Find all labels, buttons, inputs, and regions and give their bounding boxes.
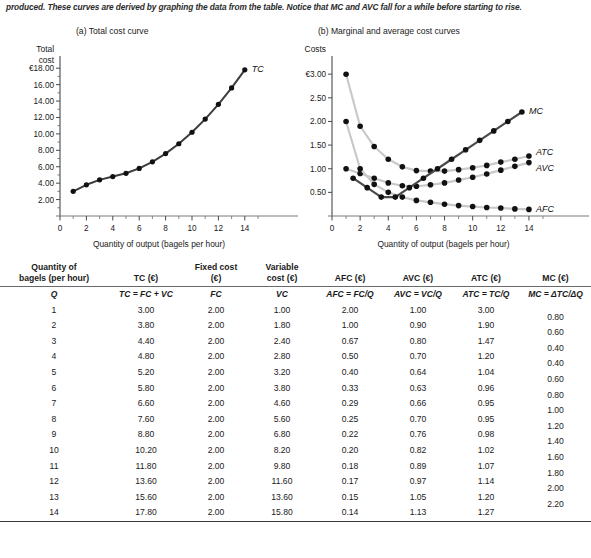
cell-mc: 0.60 [520, 372, 591, 388]
header-line: AVC (€) [384, 273, 452, 284]
cell-vc: 5.60 [248, 412, 316, 428]
cell-avc: 0.66 [384, 396, 452, 412]
data-point-atc [456, 167, 462, 173]
y-tick-label: €3.00 [306, 70, 327, 79]
x-tick-label: 12 [496, 224, 506, 233]
cell-tc: 4.40 [108, 334, 184, 350]
cell-avc: 0.70 [384, 412, 452, 428]
cell-tc: 3.00 [108, 303, 184, 319]
y-tick-label: 4.00 [38, 179, 54, 188]
data-point-afc [343, 119, 349, 125]
y-tick-label: 2.00 [38, 196, 54, 205]
cell-tc: 5.20 [108, 365, 184, 381]
y-tick-label: 1.50 [310, 141, 326, 150]
cell-q: 13 [0, 490, 108, 506]
cell-atc: 1.04 [452, 365, 520, 381]
data-point-atc [484, 163, 490, 169]
y-tick-label: 8.00 [38, 146, 54, 155]
cell-fc: 2.00 [184, 443, 248, 459]
figure-caption: produced. These curves are derived by gr… [6, 2, 586, 13]
cell-afc: 0.18 [316, 459, 384, 475]
data-point-afc [400, 194, 406, 200]
data-point-atc [470, 165, 476, 171]
y-tick-label: 12.00 [34, 113, 55, 122]
data-point-mc [519, 109, 525, 115]
cell-q: 11 [0, 459, 108, 475]
y-tick-label: 2.00 [310, 117, 326, 126]
header-mc: MC (€) [520, 262, 591, 287]
header-variable-cost: Variablecost (€) [248, 262, 316, 287]
data-point-mc [407, 185, 413, 191]
cell-atc: 0.98 [452, 427, 520, 443]
marginal-average-cost-chart-svg: 0.501.001.502.002.50€3.0002468101214Cost… [290, 44, 591, 260]
cell-tc: 6.60 [108, 396, 184, 412]
cell-tc: 17.80 [108, 505, 184, 521]
table-row: 34.402.002.400.670.801.470.40 [0, 334, 591, 350]
data-point-afc [442, 201, 448, 207]
table-row: 13.002.001.002.001.003.000.80 [0, 303, 591, 319]
data-point-avc [526, 160, 532, 166]
header-afc: AFC (€) [316, 262, 384, 287]
data-point-avc [484, 171, 490, 177]
y-tick-label: 14.00 [34, 97, 55, 106]
cell-avc: 0.64 [384, 365, 452, 381]
cost-data-table: Quantity ofbagels (per hour) TC (€) Fixe… [0, 262, 591, 522]
x-tick-label: 8 [442, 224, 447, 233]
cell-mc: 1.00 [520, 403, 591, 419]
cell-q: 5 [0, 365, 108, 381]
cell-avc: 0.70 [384, 349, 452, 365]
data-point-afc [484, 205, 490, 211]
cell-fc: 2.00 [184, 381, 248, 397]
cell-tc: 5.80 [108, 381, 184, 397]
curve-label-atc: ATC [535, 147, 554, 157]
data-point-tc [203, 117, 208, 122]
data-point-tc [150, 159, 155, 164]
cell-avc: 0.90 [384, 318, 452, 334]
cell-vc: 3.80 [248, 381, 316, 397]
cell-avc: 1.00 [384, 303, 452, 319]
cell-afc: 0.33 [316, 381, 384, 397]
cell-mc: 0.60 [520, 325, 591, 341]
cell-tc: 3.80 [108, 318, 184, 334]
cell-afc: 0.50 [316, 349, 384, 365]
cell-q: 6 [0, 381, 108, 397]
data-point-tc [229, 85, 234, 90]
cell-vc: 13.60 [248, 490, 316, 506]
data-point-tc [242, 67, 247, 72]
cell-tc: 15.60 [108, 490, 184, 506]
cell-avc: 0.97 [384, 474, 452, 490]
formula-fc: FC [184, 287, 248, 303]
x-tick-label: 2 [358, 224, 363, 233]
data-point-avc [400, 183, 406, 189]
data-point-avc [512, 164, 518, 170]
cell-fc: 2.00 [184, 474, 248, 490]
data-point-mc [364, 185, 370, 191]
cell-avc: 0.89 [384, 459, 452, 475]
data-point-tc [110, 174, 115, 179]
cell-q: 9 [0, 427, 108, 443]
data-point-atc [400, 164, 406, 170]
cell-mc: 1.40 [520, 434, 591, 450]
y-tick-label: 1.00 [310, 165, 326, 174]
cell-atc: 1.20 [452, 349, 520, 365]
cell-vc: 15.80 [248, 505, 316, 521]
cell-mc: 0.40 [520, 356, 591, 372]
data-point-mc [449, 156, 455, 162]
y-tick-label: €18.00 [29, 64, 54, 73]
data-point-afc [414, 198, 420, 204]
total-cost-chart: 2.004.006.008.0010.0012.0014.0016.00€18.… [0, 44, 300, 260]
header-line: cost (€) [248, 273, 316, 284]
table-row: 1213.602.0011.600.170.971.142.00 [0, 474, 591, 490]
cell-afc: 0.14 [316, 505, 384, 521]
table-row: 23.802.001.801.000.901.900.60 [0, 318, 591, 334]
cell-q: 12 [0, 474, 108, 490]
series-line-atc [346, 74, 529, 171]
cell-fc: 2.00 [184, 349, 248, 365]
cell-mc [520, 512, 591, 528]
data-point-afc [512, 206, 518, 212]
data-point-atc [526, 153, 532, 159]
header-fixed-cost: Fixed cost(€) [184, 262, 248, 287]
cell-afc: 0.17 [316, 474, 384, 490]
panel-a-title: (a) Total cost curve [76, 26, 148, 36]
data-point-avc [385, 180, 391, 186]
